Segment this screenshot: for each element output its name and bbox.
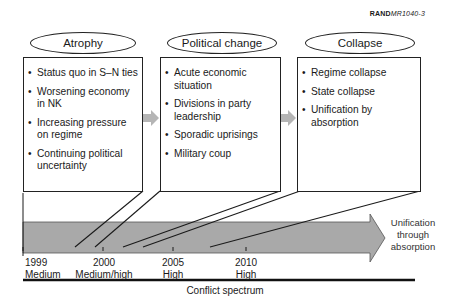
stage-box-political-change: Acute economic situation Divisions in pa…: [160, 57, 281, 192]
arrow-label: Unification through absorption: [382, 217, 444, 253]
big-gray-arrow: [23, 214, 385, 262]
timeline-year: 2005: [153, 257, 193, 269]
small-arrow-1: [143, 110, 159, 126]
stage-item: Increasing pressure on regime: [28, 117, 138, 142]
stage-box-collapse: Regime collapse State collapse Unificati…: [297, 57, 421, 192]
timeline-level: High: [153, 269, 193, 281]
timeline-point-2010: 2010 High: [226, 257, 266, 281]
stage-title-atrophy: Atrophy: [30, 32, 136, 54]
stage-item: Status quo in S–N ties: [28, 67, 138, 80]
timeline-level: Medium: [25, 269, 61, 281]
timeline-point-2000: 2000 Medium/high: [73, 257, 135, 281]
small-arrow-2: [280, 110, 296, 126]
stage-item: Divisions in party leadership: [165, 98, 276, 123]
stage-title-text: Atrophy: [63, 37, 103, 49]
stage-item: Sporadic uprisings: [165, 129, 276, 142]
stage-item: Military coup: [165, 148, 276, 161]
stage-title-collapse: Collapse: [305, 32, 415, 54]
stage-title-text: Political change: [182, 37, 263, 49]
stage-box-atrophy: Status quo in S–N ties Worsening economy…: [23, 57, 143, 192]
stage-item: Acute economic situation: [165, 67, 276, 92]
stage-title-political-change: Political change: [167, 32, 277, 54]
timeline-year: 2010: [226, 257, 266, 269]
stage-item: Regime collapse: [302, 67, 416, 80]
timeline-level: Medium/high: [73, 269, 135, 281]
timeline-year: 1999: [25, 257, 61, 269]
timeline-level: High: [226, 269, 266, 281]
timeline-year: 2000: [73, 257, 135, 269]
stage-item: State collapse: [302, 86, 416, 99]
axis-label: Conflict spectrum: [130, 285, 320, 296]
timeline-point-2005: 2005 High: [153, 257, 193, 281]
stage-title-text: Collapse: [338, 37, 383, 49]
stage-item: Worsening economy in NK: [28, 86, 138, 111]
stage-item: Unification by absorption: [302, 104, 416, 129]
stage-item: Continuing political uncertainty: [28, 148, 138, 173]
timeline-point-1999: 1999 Medium: [25, 257, 61, 281]
